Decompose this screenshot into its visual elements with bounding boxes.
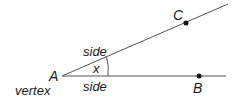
- side-label-lower: side: [83, 79, 107, 94]
- ray-ac: [62, 4, 228, 76]
- angle-label-x: x: [92, 61, 100, 76]
- angle-diagram: C B A vertex side side x: [0, 0, 238, 102]
- label-a: A: [48, 68, 58, 84]
- label-c: C: [173, 7, 184, 23]
- point-b: [197, 74, 202, 79]
- vertex-caption: vertex: [15, 83, 51, 98]
- point-c: [184, 21, 189, 26]
- label-b: B: [193, 80, 202, 96]
- angle-arc: [107, 57, 109, 76]
- side-label-upper: side: [83, 44, 107, 59]
